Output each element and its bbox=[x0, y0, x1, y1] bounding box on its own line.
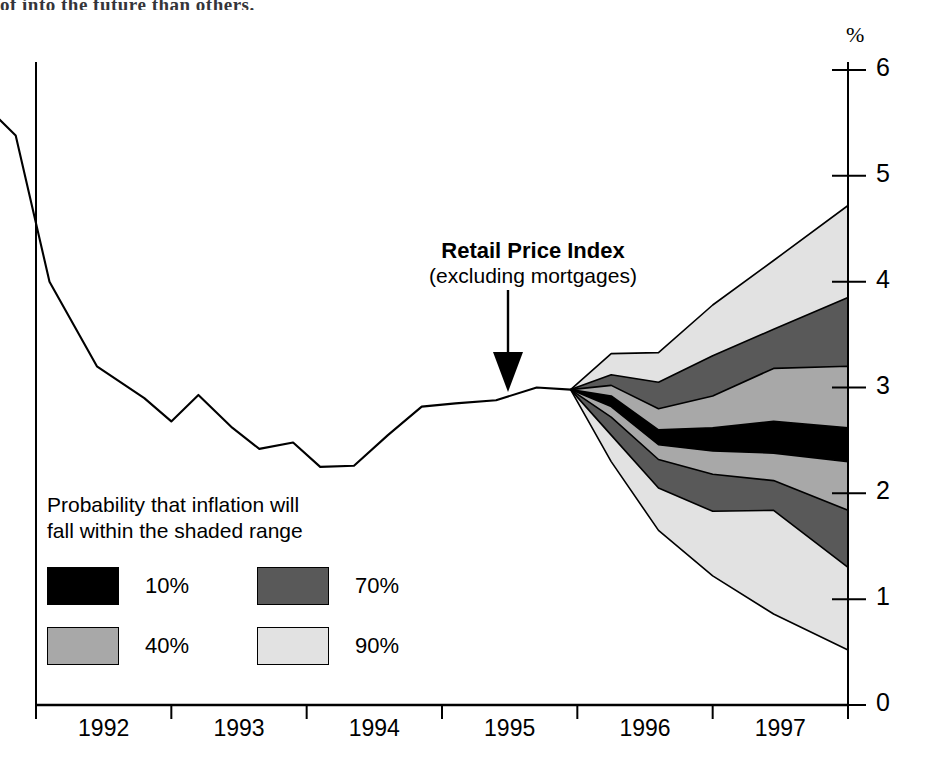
legend-swatch-40pct bbox=[47, 627, 119, 665]
y-tick-label-2: 2 bbox=[876, 476, 916, 505]
x-tick-label-1995: 1995 bbox=[450, 715, 570, 742]
legend-label-90pct: 90% bbox=[341, 633, 431, 659]
y-tick-label-3: 3 bbox=[876, 371, 916, 400]
y-tick-label-1: 1 bbox=[876, 582, 916, 611]
legend-swatch-90pct bbox=[257, 627, 329, 665]
y-tick-label-6: 6 bbox=[876, 53, 916, 82]
annotation-line1: Retail Price Index bbox=[383, 238, 683, 264]
legend-label-40pct: 40% bbox=[131, 633, 257, 659]
legend-swatch-10pct bbox=[47, 567, 119, 605]
x-tick-label-1994: 1994 bbox=[314, 715, 434, 742]
legend: Probability that inflation will fall wit… bbox=[47, 492, 417, 665]
y-tick-label-0: 0 bbox=[876, 688, 916, 717]
legend-label-10pct: 10% bbox=[131, 573, 257, 599]
annotation-arrow bbox=[493, 290, 523, 392]
legend-title: Probability that inflation will fall wit… bbox=[47, 492, 417, 545]
y-tick-label-4: 4 bbox=[876, 265, 916, 294]
legend-label-70pct: 70% bbox=[341, 573, 431, 599]
x-tick-label-1997: 1997 bbox=[720, 715, 840, 742]
chart-page: of into the future than others. % 012345… bbox=[0, 0, 933, 773]
y-axis-unit-label: % bbox=[846, 22, 864, 48]
y-tick-label-5: 5 bbox=[876, 159, 916, 188]
x-tick-label-1993: 1993 bbox=[179, 715, 299, 742]
annotation-line2: (excluding mortgages) bbox=[383, 264, 683, 289]
series-annotation: Retail Price Index (excluding mortgages) bbox=[383, 238, 683, 289]
legend-swatch-70pct bbox=[257, 567, 329, 605]
x-tick-label-1996: 1996 bbox=[585, 715, 705, 742]
x-tick-label-1992: 1992 bbox=[44, 715, 164, 742]
legend-items: 10%70%40%90% bbox=[47, 567, 417, 665]
